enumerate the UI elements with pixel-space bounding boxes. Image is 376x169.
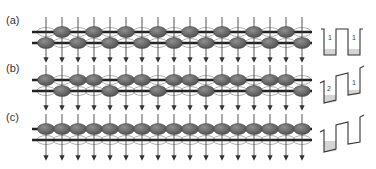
occupied-site-icon (70, 124, 87, 135)
occupied-site-icon (294, 124, 311, 135)
occupied-site-icon (134, 75, 151, 86)
occupied-site-icon (230, 124, 247, 135)
occupied-site-icon (118, 124, 135, 135)
occupied-site-icon (86, 27, 103, 38)
occupied-site-icon (198, 124, 215, 135)
occupied-site-icon (150, 124, 167, 135)
occupied-site-icon (70, 75, 87, 86)
occupied-site-icon (54, 86, 71, 97)
occupied-site-icon (294, 38, 311, 49)
well-label: 2 (327, 85, 331, 92)
panel-label: (c) (6, 111, 19, 123)
occupied-site-icon (262, 124, 279, 135)
occupied-site-icon (118, 27, 135, 38)
occupied-site-icon (262, 75, 279, 86)
panel-b: (b)21 (6, 62, 364, 108)
occupied-site-icon (246, 86, 263, 97)
lattice-diagram: (a)11(b)21(c) (0, 0, 376, 169)
occupied-site-icon (54, 27, 71, 38)
occupied-site-icon (134, 38, 151, 49)
occupied-site-icon (38, 75, 55, 86)
occupied-site-icon (166, 38, 183, 49)
occupied-site-icon (182, 27, 199, 38)
occupied-site-icon (102, 124, 119, 135)
occupied-site-icon (150, 27, 167, 38)
occupied-site-icon (118, 75, 135, 86)
occupied-site-icon (182, 75, 199, 86)
well-label: 1 (352, 34, 356, 41)
occupied-site-icon (70, 38, 87, 49)
occupied-site-icon (198, 86, 215, 97)
potential-well-c (320, 115, 364, 152)
well-label: 1 (352, 79, 356, 86)
occupied-site-icon (278, 124, 295, 135)
occupied-site-icon (166, 75, 183, 86)
panel-c: (c) (6, 111, 364, 158)
occupied-site-icon (246, 27, 263, 38)
occupied-site-icon (166, 124, 183, 135)
occupied-site-icon (86, 124, 103, 135)
occupied-site-icon (54, 124, 71, 135)
occupied-site-icon (214, 75, 231, 86)
occupied-site-icon (262, 38, 279, 49)
panel-label: (b) (6, 62, 19, 74)
occupied-site-icon (150, 86, 167, 97)
panel-a: (a)11 (6, 14, 363, 60)
panel-label: (a) (6, 14, 19, 26)
occupied-site-icon (86, 75, 103, 86)
occupied-site-icon (278, 75, 295, 86)
occupied-site-icon (214, 27, 231, 38)
occupied-site-icon (102, 86, 119, 97)
occupied-site-icon (230, 75, 247, 86)
occupied-site-icon (294, 86, 311, 97)
occupied-site-icon (38, 124, 55, 135)
occupied-site-icon (246, 124, 263, 135)
occupied-site-icon (278, 27, 295, 38)
occupied-site-icon (102, 38, 119, 49)
potential-well-a: 11 (321, 29, 363, 55)
occupied-site-icon (198, 38, 215, 49)
well-label: 1 (328, 34, 332, 41)
occupied-site-icon (214, 124, 231, 135)
occupied-site-icon (230, 38, 247, 49)
occupied-site-icon (38, 38, 55, 49)
occupied-site-icon (134, 124, 151, 135)
potential-well-b: 21 (320, 66, 364, 103)
occupied-site-icon (182, 124, 199, 135)
